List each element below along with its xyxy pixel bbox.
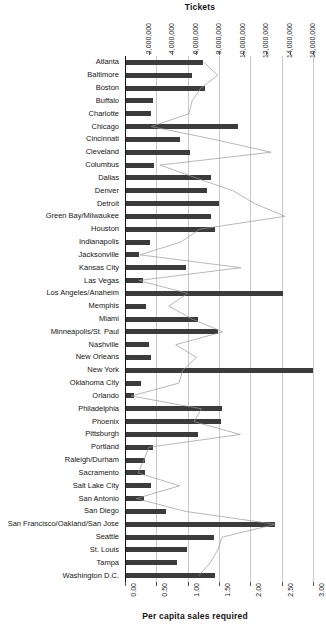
- category-label: Phoenix: [0, 418, 122, 426]
- line-series: [125, 56, 313, 582]
- top-tick-label: 8,000,000: [214, 23, 223, 54]
- plot-area: [125, 56, 313, 582]
- category-label: Kansas City: [0, 264, 122, 272]
- tick-mark-top: [243, 51, 244, 55]
- tick-mark-bottom: [282, 582, 283, 586]
- category-label: Portland: [0, 443, 122, 451]
- category-label: San Antonio: [0, 495, 122, 503]
- category-label: New York: [0, 366, 122, 374]
- tick-mark-top: [266, 51, 267, 55]
- tick-mark-bottom: [250, 582, 251, 586]
- category-label: Nashville: [0, 341, 122, 349]
- category-axis-labels: AtlantaBaltimoreBostonBuffaloCharlotteCh…: [0, 56, 122, 582]
- category-label: Seattle: [0, 533, 122, 541]
- category-label: Houston: [0, 225, 122, 233]
- category-label: Chicago: [0, 123, 122, 131]
- top-tick-label: 6,000,000: [191, 23, 200, 54]
- category-label: San Francisco/Oakland/San Jose: [0, 520, 122, 528]
- category-label: Buffalo: [0, 97, 122, 105]
- category-label: Memphis: [0, 302, 122, 310]
- tick-mark-top: [172, 51, 173, 55]
- category-label: Las Vegas: [0, 277, 122, 285]
- category-label: Washington D.C.: [0, 572, 122, 580]
- bottom-tick-label: 2.00: [254, 583, 263, 597]
- category-label: Atlanta: [0, 58, 122, 66]
- top-tick-label: 4,000,000: [167, 23, 176, 54]
- tick-mark-top: [313, 51, 314, 55]
- category-label: Philadelphia: [0, 405, 122, 413]
- tick-mark-top: [219, 51, 220, 55]
- top-axis-title: Tickets: [0, 2, 324, 12]
- bottom-tick-label: 0.50: [160, 583, 169, 597]
- category-label: Jacksonville: [0, 251, 122, 259]
- bottom-tick-label: 2.50: [286, 583, 295, 597]
- category-label: Boston: [0, 84, 122, 92]
- gridline: [313, 56, 314, 582]
- category-label: Columbus: [0, 161, 122, 169]
- category-label: Cleveland: [0, 148, 122, 156]
- category-label: Detroit: [0, 200, 122, 208]
- tick-mark-bottom: [156, 582, 157, 586]
- tick-mark-bottom: [125, 582, 126, 586]
- category-label: St. Louis: [0, 546, 122, 554]
- category-label: Dallas: [0, 174, 122, 182]
- bottom-axis-title: Per capita sales required: [0, 611, 324, 621]
- category-label: Cincinnati: [0, 135, 122, 143]
- bottom-tick-label: 3.00: [317, 583, 326, 597]
- category-label: Raleigh/Durham: [0, 456, 122, 464]
- category-label: Los Angeles/Anaheim: [0, 289, 122, 297]
- category-label: Salt Lake City: [0, 482, 122, 490]
- category-label: Pittsburgh: [0, 430, 122, 438]
- category-label: San Diego: [0, 507, 122, 515]
- category-label: Indianapolis: [0, 238, 122, 246]
- category-axis-line: [125, 56, 126, 582]
- tick-mark-bottom: [313, 582, 314, 586]
- tick-mark-top: [290, 51, 291, 55]
- category-label: Charlotte: [0, 110, 122, 118]
- category-label: Sacramento: [0, 469, 122, 477]
- category-label: New Orleans: [0, 353, 122, 361]
- category-label: Tampa: [0, 559, 122, 567]
- top-tick-label: 2,000,000: [144, 23, 153, 54]
- category-label: Baltimore: [0, 71, 122, 79]
- tick-mark-top: [196, 51, 197, 55]
- bottom-tick-label: 0.00: [129, 583, 138, 597]
- category-label: Orlando: [0, 392, 122, 400]
- tick-mark-bottom: [188, 582, 189, 586]
- tick-mark-top: [149, 51, 150, 55]
- tick-mark-bottom: [219, 582, 220, 586]
- bottom-tick-label: 1.00: [192, 583, 201, 597]
- category-label: Denver: [0, 187, 122, 195]
- category-label: Minneapolis/St. Paul: [0, 328, 122, 336]
- category-label: Miami: [0, 315, 122, 323]
- bottom-tick-label: 1.50: [223, 583, 232, 597]
- category-label: Green Bay/Milwaukee: [0, 212, 122, 220]
- category-label: Oklahoma City: [0, 379, 122, 387]
